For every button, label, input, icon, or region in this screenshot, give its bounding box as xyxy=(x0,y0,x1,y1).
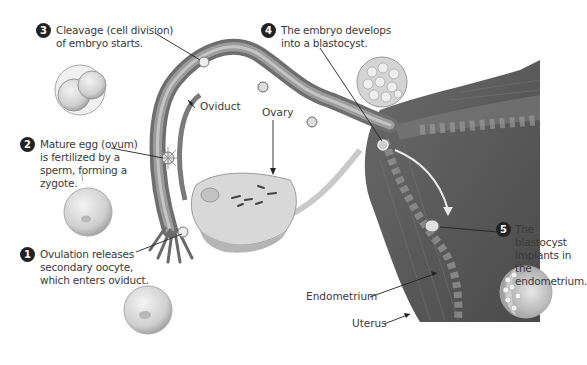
cleavage-cell-illustration xyxy=(55,65,106,115)
step-3-text: Cleavage (cell division) of embryo start… xyxy=(56,24,173,50)
step-4-text: The embryo develops into a blastocyst. xyxy=(281,24,391,50)
step-1-badge: 1 xyxy=(20,247,35,262)
step-1-text: Ovulation releases secondary oocyte, whi… xyxy=(40,248,149,287)
step-4-badge: 4 xyxy=(261,23,276,38)
uterus-label: Uterus xyxy=(352,317,387,329)
blastocyst-morula-illustration xyxy=(357,57,407,107)
step-5-text: The blastocyst implants in the endometri… xyxy=(515,223,587,288)
step-3-badge: 3 xyxy=(36,23,51,38)
ovary-label: Ovary xyxy=(262,106,293,118)
endometrium-label: Endometrium xyxy=(306,290,377,302)
oocyte-illustration xyxy=(124,286,172,334)
oviduct-label: Oviduct xyxy=(200,100,241,112)
ovary-illustration xyxy=(191,173,296,253)
step-2-badge: 2 xyxy=(20,137,35,152)
step-5-badge: 5 xyxy=(496,222,511,237)
step-2-text: Mature egg (ovum) is fertilized by a spe… xyxy=(40,138,138,190)
